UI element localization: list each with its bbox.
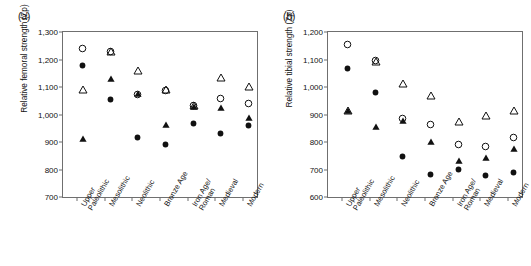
x-tick-mark	[480, 197, 481, 201]
panel-a-y-axis-title: Relative femoral strength (Zp)	[20, 0, 29, 139]
x-tick-mark	[452, 197, 453, 201]
y-tick-label: 800	[45, 165, 58, 174]
y-tick-mark	[59, 32, 63, 33]
x-tick-label: Iron Age/ Roman	[191, 178, 221, 213]
panel-a-plot-area: 1,3001,2001,1001,000900800700Upper Paleo…	[62, 31, 258, 198]
y-tick-mark	[59, 114, 63, 115]
y-tick-label: 600	[310, 193, 323, 202]
y-tick-mark	[59, 197, 63, 198]
x-tick-mark	[76, 197, 77, 201]
y-tick-mark	[324, 32, 328, 33]
x-tick-mark	[508, 197, 509, 201]
y-tick-label: 700	[45, 193, 58, 202]
x-tick-label: Upper Paleolithic	[345, 174, 377, 212]
x-tick-mark	[425, 197, 426, 201]
y-tick-mark	[324, 142, 328, 143]
y-tick-label: 1,300	[38, 28, 58, 37]
x-tick-mark	[243, 197, 244, 201]
x-tick-label: Medieval	[218, 178, 240, 209]
y-tick-mark	[59, 142, 63, 143]
y-tick-mark	[324, 59, 328, 60]
y-tick-label: 1,100	[38, 83, 58, 92]
x-tick-label: Bronze Age	[163, 170, 190, 208]
x-tick-mark	[369, 197, 370, 201]
x-tick-mark	[104, 197, 105, 201]
x-tick-label: Iron Age/ Roman	[456, 178, 486, 213]
y-tick-label: 700	[310, 165, 323, 174]
y-tick-label: 1,100	[303, 55, 323, 64]
y-tick-label: 1,000	[38, 110, 58, 119]
panel-b: (b) Relative tibial strength (Zp) 1,2001…	[265, 0, 529, 266]
y-tick-mark	[59, 59, 63, 60]
x-tick-label: Modern	[246, 182, 266, 209]
x-tick-mark	[341, 197, 342, 201]
y-tick-mark	[324, 87, 328, 88]
x-tick-mark	[187, 197, 188, 201]
x-tick-mark	[160, 197, 161, 201]
panel-b-y-axis-title: Relative tibial strength (Zp)	[285, 0, 294, 139]
y-tick-label: 1,200	[303, 28, 323, 37]
y-tick-mark	[59, 87, 63, 88]
y-tick-label: 1,000	[303, 83, 323, 92]
x-tick-mark	[215, 197, 216, 201]
y-tick-label: 900	[310, 110, 323, 119]
x-tick-mark	[397, 197, 398, 201]
x-tick-label: Neolithic	[400, 179, 422, 208]
panel-a: (a) Relative femoral strength (Zp) 1,300…	[0, 0, 264, 266]
y-tick-label: 800	[310, 138, 323, 147]
y-tick-label: 900	[45, 138, 58, 147]
x-tick-label: Neolithic	[135, 179, 157, 208]
y-tick-mark	[324, 114, 328, 115]
x-tick-label: Mesolithic	[108, 175, 132, 208]
y-tick-mark	[324, 197, 328, 198]
y-tick-mark	[59, 169, 63, 170]
x-tick-label: Upper Paleolithic	[80, 174, 112, 212]
x-tick-label: Medieval	[483, 178, 505, 209]
y-tick-mark	[324, 169, 328, 170]
x-tick-label: Modern	[511, 182, 531, 209]
x-tick-label: Mesolithic	[373, 175, 397, 208]
y-tick-label: 1,200	[38, 55, 58, 64]
panel-b-plot-area: 1,2001,1001,000900800700600Upper Paleoli…	[327, 31, 523, 198]
x-tick-mark	[132, 197, 133, 201]
